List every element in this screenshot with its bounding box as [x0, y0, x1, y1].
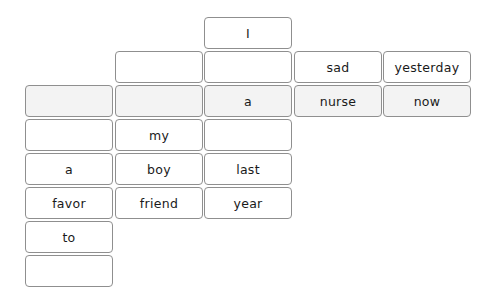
word-tile-now[interactable]: now — [383, 85, 471, 117]
word-tile-i[interactable]: I — [204, 17, 292, 49]
word-tile-friend[interactable]: friend — [115, 187, 203, 219]
word-tile-to[interactable]: to — [25, 221, 113, 253]
word-grid: Isadyesterdayanursenowmyaboylastfavorfri… — [0, 0, 494, 306]
empty-slot[interactable] — [25, 255, 113, 287]
empty-slot[interactable] — [25, 85, 113, 117]
empty-slot[interactable] — [204, 51, 292, 83]
word-tile-my[interactable]: my — [115, 119, 203, 151]
word-tile-yesterday[interactable]: yesterday — [383, 51, 471, 83]
word-tile-last[interactable]: last — [204, 153, 292, 185]
word-tile-boy[interactable]: boy — [115, 153, 203, 185]
word-tile-nurse[interactable]: nurse — [294, 85, 382, 117]
empty-slot[interactable] — [25, 119, 113, 151]
empty-slot[interactable] — [204, 119, 292, 151]
word-tile-favor[interactable]: favor — [25, 187, 113, 219]
word-tile-a[interactable]: a — [25, 153, 113, 185]
empty-slot[interactable] — [115, 85, 203, 117]
word-tile-year[interactable]: year — [204, 187, 292, 219]
word-tile-sad[interactable]: sad — [294, 51, 382, 83]
word-tile-a[interactable]: a — [204, 85, 292, 117]
empty-slot[interactable] — [115, 51, 203, 83]
